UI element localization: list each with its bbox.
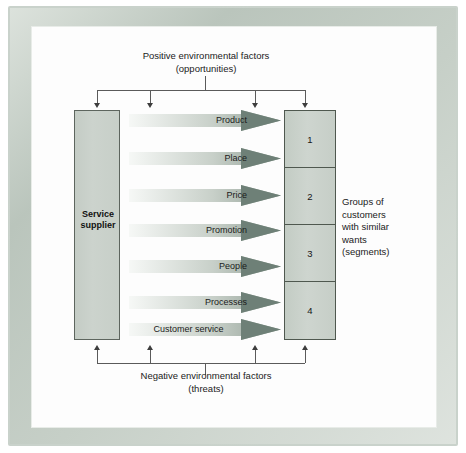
positive-factors-line2: (opportunities) <box>86 63 326 76</box>
bottom-riser-line-1 <box>97 350 98 363</box>
segments-caption-line5: (segments) <box>342 246 422 259</box>
top-arrow-2 <box>147 103 153 108</box>
segments-caption: Groups of customers with similar wants (… <box>342 196 422 259</box>
mix-label-people: People <box>161 256 247 277</box>
negative-factors-line2: (threats) <box>86 383 326 396</box>
positive-factors-line1: Positive environmental factors <box>86 50 326 63</box>
top-drop-line-4 <box>305 90 306 103</box>
mix-label-product: Product <box>161 110 247 131</box>
service-supplier-line2: supplier <box>75 220 121 231</box>
bottom-riser-line-2 <box>150 350 151 363</box>
top-drop-line-3 <box>255 90 256 103</box>
negative-factors-caption: Negative environmental factors (threats) <box>86 370 326 395</box>
segments-caption-line4: wants <box>342 234 422 247</box>
top-arrow-4 <box>302 103 308 108</box>
service-supplier-line1: Service <box>75 209 121 220</box>
segment-2[interactable]: 2 <box>285 168 335 225</box>
segment-4[interactable]: 4 <box>285 282 335 339</box>
top-drop-line-1 <box>97 90 98 103</box>
diagram-page: Positive environmental factors (opportun… <box>0 0 466 453</box>
segments-caption-line2: customers <box>342 209 422 222</box>
mix-label-processes: Processes <box>155 292 247 313</box>
positive-factors-caption: Positive environmental factors (opportun… <box>86 50 326 75</box>
top-arrow-1 <box>94 103 100 108</box>
service-supplier-box[interactable]: Service supplier <box>74 110 120 340</box>
bottom-riser-line-4 <box>305 350 306 363</box>
customer-segments-box[interactable]: 1 2 3 4 <box>284 110 336 340</box>
segments-caption-line3: with similar <box>342 221 422 234</box>
mix-label-place: Place <box>161 148 247 169</box>
segment-1[interactable]: 1 <box>285 111 335 168</box>
mix-label-customer-service: Customer service <box>130 319 247 340</box>
bottom-riser-line-3 <box>255 350 256 363</box>
segments-caption-line1: Groups of <box>342 196 422 209</box>
top-connector-stem <box>205 76 206 90</box>
top-connector-bar <box>97 90 305 91</box>
mix-label-promotion: Promotion <box>155 220 247 241</box>
segment-3[interactable]: 3 <box>285 225 335 282</box>
service-supplier-label: Service supplier <box>75 209 121 231</box>
mix-label-price: Price <box>161 185 247 206</box>
bottom-connector-bar <box>97 363 305 364</box>
top-drop-line-2 <box>150 90 151 103</box>
top-arrow-3 <box>252 103 258 108</box>
negative-factors-line1: Negative environmental factors <box>86 370 326 383</box>
